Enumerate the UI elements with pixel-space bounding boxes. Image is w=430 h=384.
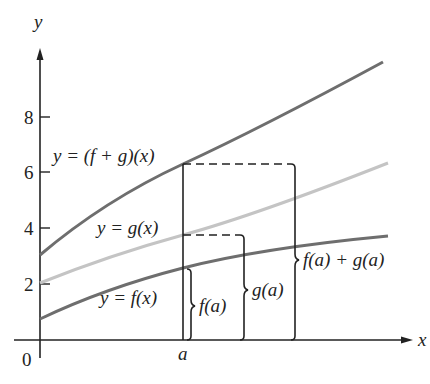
brace-g [240, 235, 248, 340]
a-label: a [178, 344, 188, 363]
tick-label-4: 4 [24, 219, 34, 238]
tick-label-2: 2 [24, 275, 34, 294]
y-axis-arrow-icon [37, 48, 44, 60]
fg-curve-label: y = (f + g)(x) [53, 146, 155, 165]
x-axis-arrow-icon [401, 337, 413, 344]
f-curve-label: y = f(x) [100, 288, 157, 307]
tick-label-8: 8 [24, 108, 34, 127]
function-sum-graph [0, 0, 430, 384]
y-axis-label: y [34, 12, 42, 31]
brace-f [187, 269, 195, 340]
brace-fg-label: f(a) + g(a) [303, 250, 384, 269]
brace-fg [291, 164, 299, 340]
origin-label: 0 [22, 350, 32, 369]
tick-label-6: 6 [24, 163, 34, 182]
brace-f-label: f(a) [199, 296, 226, 315]
x-axis-label: x [418, 330, 426, 349]
brace-g-label: g(a) [252, 280, 284, 299]
g-curve-label: y = g(x) [97, 218, 158, 237]
